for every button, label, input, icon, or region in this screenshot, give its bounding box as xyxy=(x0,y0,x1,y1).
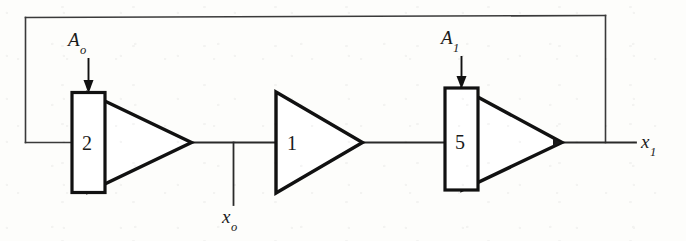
label-signal-output-subscript: 1 xyxy=(650,145,656,159)
diagram-canvas xyxy=(0,0,686,241)
amplifier-block-diagram: Ao A1 xo x1 2 1 5 xyxy=(0,0,686,241)
label-signal-intermediate-subscript: o xyxy=(231,220,237,234)
label-gain-control-1: A1 xyxy=(441,28,459,51)
stage-1-symbol xyxy=(72,58,192,193)
signal-wires xyxy=(191,143,636,206)
label-gain-control-1-subscript: 1 xyxy=(453,41,459,55)
label-signal-output: x1 xyxy=(641,132,656,155)
stage-1-gain-value: 2 xyxy=(82,133,92,153)
stage-2-gain-value: 1 xyxy=(287,133,297,153)
stage-3-gain-value: 5 xyxy=(455,132,465,152)
label-gain-control-0-subscript: o xyxy=(80,43,86,57)
feedback-top-wire xyxy=(26,16,606,18)
label-signal-intermediate: xo xyxy=(222,207,237,230)
label-gain-control-0: Ao xyxy=(68,30,86,53)
stage-3-symbol xyxy=(445,56,562,190)
